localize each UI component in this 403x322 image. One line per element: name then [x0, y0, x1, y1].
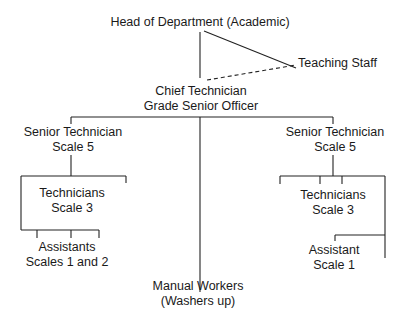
node-detail: (Washers up): [153, 294, 244, 309]
node-grade: Scale 3: [300, 203, 365, 218]
node-title: Technicians: [300, 188, 365, 203]
node-assistants-left: Assistants Scales 1 and 2: [26, 240, 109, 270]
connector-lines: [0, 0, 403, 322]
node-label: Head of Department (Academic): [110, 15, 289, 30]
node-label: Teaching Staff: [298, 56, 377, 71]
node-grade: Scale 5: [286, 140, 384, 155]
node-assistant-right: Assistant Scale 1: [309, 243, 360, 273]
node-grade: Scale 3: [39, 201, 104, 216]
node-manual-workers: Manual Workers (Washers up): [153, 279, 244, 309]
node-grade: Scales 1 and 2: [26, 255, 109, 270]
node-grade: Scale 1: [309, 258, 360, 273]
node-title: Senior Technician: [24, 125, 122, 140]
node-grade: Grade Senior Officer: [144, 99, 258, 114]
node-title: Chief Technician: [144, 84, 258, 99]
node-chief-technician: Chief Technician Grade Senior Officer: [144, 84, 258, 114]
node-title: Assistant: [309, 243, 360, 258]
node-technicians-right: Technicians Scale 3: [300, 188, 365, 218]
node-senior-technician-left: Senior Technician Scale 5: [24, 125, 122, 155]
node-technicians-left: Technicians Scale 3: [39, 186, 104, 216]
node-grade: Scale 5: [24, 140, 122, 155]
node-senior-technician-right: Senior Technician Scale 5: [286, 125, 384, 155]
node-title: Senior Technician: [286, 125, 384, 140]
node-teaching-staff: Teaching Staff: [298, 56, 377, 71]
node-title: Technicians: [39, 186, 104, 201]
node-title: Manual Workers: [153, 279, 244, 294]
node-title: Assistants: [26, 240, 109, 255]
node-head-of-department: Head of Department (Academic): [110, 15, 289, 30]
